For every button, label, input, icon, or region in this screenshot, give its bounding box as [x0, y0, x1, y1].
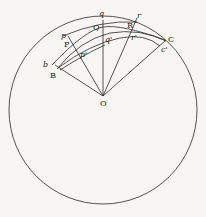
- label-P: P: [64, 40, 70, 49]
- label-r: r: [137, 11, 142, 20]
- label-q-prime: q': [105, 35, 112, 44]
- label-Q: Q: [93, 23, 100, 32]
- figure-svg: b B p P p' q Q q' r R r' C c' O: [0, 0, 206, 217]
- radius-OC: [103, 40, 166, 96]
- label-p-prime: p': [80, 50, 87, 59]
- radius-OB: [55, 65, 103, 96]
- label-r-prime: r': [131, 33, 137, 42]
- label-c-prime: c': [161, 45, 168, 54]
- label-q: q: [99, 9, 104, 18]
- label-B: B: [50, 71, 56, 80]
- arc-pq-upper: [63, 22, 137, 36]
- label-b: b: [43, 60, 48, 69]
- label-C: C: [168, 35, 174, 44]
- label-O: O: [100, 99, 107, 108]
- label-R: R: [127, 21, 134, 30]
- label-p: p: [61, 31, 66, 40]
- diagram-canvas: b B p P p' q Q q' r R r' C c' O: [0, 0, 206, 217]
